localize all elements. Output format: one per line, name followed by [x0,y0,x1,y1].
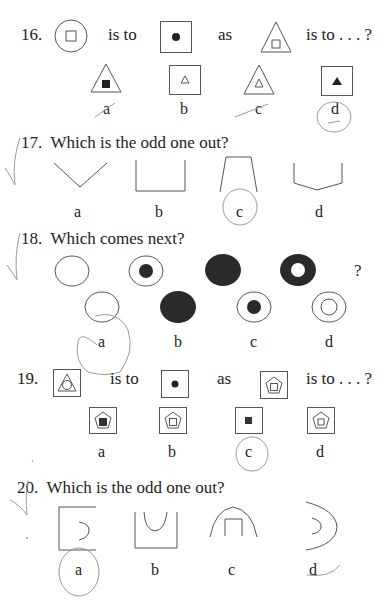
q20-figures [0,0,385,616]
q20-option-c-figure [210,507,257,537]
q20-option-b-label[interactable]: b [151,562,159,578]
q20-option-a-label[interactable]: a [75,562,82,578]
q20-option-d-label[interactable]: d [309,562,317,578]
q20-option-a-figure [59,507,96,550]
q20-option-b-figure [135,512,177,548]
q20-option-c-label[interactable]: c [228,562,235,578]
